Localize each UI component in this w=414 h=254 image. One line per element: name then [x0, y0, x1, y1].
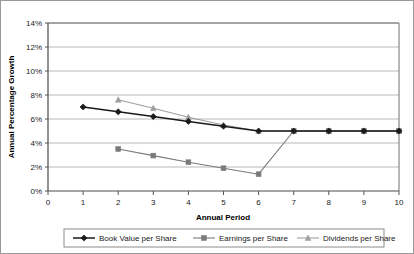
legend-label: Dividends per Share — [323, 234, 396, 243]
legend-entries: Book Value per ShareEarnings per ShareDi… — [73, 234, 396, 243]
y-tick-label: 8% — [30, 91, 42, 100]
chart-legend: Book Value per ShareEarnings per ShareDi… — [64, 229, 396, 247]
marker-square — [186, 160, 191, 165]
x-tick-label: 10 — [395, 198, 404, 207]
marker-square — [202, 236, 207, 241]
marker-square — [256, 172, 261, 177]
y-tick-label: 4% — [30, 139, 42, 148]
y-axis-title: Annual Percentage Growth — [7, 56, 16, 159]
y-tick-label: 10% — [26, 67, 42, 76]
x-tick-label: 2 — [116, 198, 121, 207]
x-tick-label: 8 — [327, 198, 332, 207]
marker-square — [116, 147, 121, 152]
marker-square — [221, 166, 226, 171]
legend-label: Earnings per Share — [219, 234, 288, 243]
marker-square — [151, 153, 156, 158]
y-tick-label: 2% — [30, 163, 42, 172]
y-tick-label: 0% — [30, 187, 42, 196]
x-tick-label: 1 — [81, 198, 86, 207]
x-axis-ticks: 012345678910 — [46, 191, 404, 207]
x-tick-label: 9 — [362, 198, 367, 207]
x-tick-label: 6 — [256, 198, 261, 207]
chart-plot-svg: 0%2%4%6%8%10%12%14% 012345678910 Annual … — [1, 1, 414, 254]
y-tick-label: 6% — [30, 115, 42, 124]
y-tick-label: 12% — [26, 43, 42, 52]
y-tick-label: 14% — [26, 19, 42, 28]
y-axis-ticks: 0%2%4%6%8%10%12%14% — [26, 19, 48, 196]
x-tick-label: 3 — [151, 198, 156, 207]
x-axis-title: Annual Period — [196, 213, 250, 222]
legend-label: Book Value per Share — [99, 234, 177, 243]
chart-container: 0%2%4%6%8%10%12%14% 012345678910 Annual … — [0, 0, 414, 254]
x-tick-label: 0 — [46, 198, 51, 207]
x-tick-label: 5 — [221, 198, 226, 207]
x-tick-label: 4 — [186, 198, 191, 207]
x-tick-label: 7 — [291, 198, 296, 207]
